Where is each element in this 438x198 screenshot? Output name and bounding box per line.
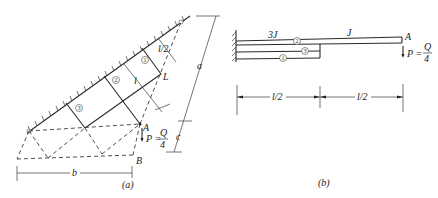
- point-a-marker: [139, 123, 142, 126]
- hinge-top: [179, 20, 183, 24]
- label-point-a-b: A: [404, 31, 412, 42]
- beam-num-3: 3: [304, 48, 307, 54]
- dim-arrow-2: [314, 96, 320, 99]
- beam-num-1: 1: [282, 55, 285, 61]
- dim-arrow-4: [397, 96, 403, 99]
- dashed-diag-2: [48, 128, 85, 158]
- dim-a-label: a: [197, 60, 202, 71]
- caption-b: (b): [318, 177, 330, 189]
- beam-num-2: 2: [296, 38, 299, 44]
- dim-arrow-3: [320, 96, 326, 99]
- member-num-1: 1: [144, 57, 147, 63]
- member-num-3: 3: [78, 105, 81, 111]
- dim-l-line: [124, 64, 162, 112]
- dashed-diag-3: [85, 128, 102, 154]
- dim-l-label: l: [134, 75, 137, 86]
- load-arrowhead-b: [402, 54, 405, 58]
- load-arrowhead-a: [141, 138, 144, 142]
- load-label-a: P =: [145, 133, 161, 144]
- structural-diagram: 3 2 1 l/2 l L A B P = Q 4 a c b (: [0, 0, 438, 198]
- dashed-left: [17, 131, 29, 159]
- load-num-b: Q: [424, 41, 432, 52]
- dim-b-label: b: [72, 167, 77, 178]
- label-point-l: L: [162, 71, 169, 82]
- dim-l2-label: l/2: [158, 43, 169, 54]
- load-den-b: 4: [424, 53, 429, 64]
- dim-arrow-1: [237, 96, 243, 99]
- caption-a: (a): [122, 179, 134, 191]
- dashed-bottom-chord: [17, 155, 133, 159]
- dashed-diag-1: [29, 131, 48, 158]
- dashed-right: [133, 124, 140, 155]
- dim-l-tick: [155, 104, 170, 110]
- dim-c-label: c: [176, 131, 181, 142]
- figure-a: 3 2 1 l/2 l L A B P = Q 4 a c b (: [17, 16, 220, 191]
- load-label-b: P =: [406, 48, 422, 59]
- dim-right-label: l/2: [357, 91, 368, 102]
- beam-1: [236, 58, 320, 59]
- dashed-diag-4: [102, 124, 140, 154]
- member-num-2: 2: [115, 77, 118, 83]
- stiffness-3j: 3J: [267, 29, 278, 40]
- load-num-a: Q: [160, 127, 168, 138]
- stiffness-j: J: [347, 27, 352, 38]
- label-point-a: A: [142, 122, 150, 133]
- label-point-b: B: [136, 155, 142, 166]
- beam-2-top: [236, 37, 402, 41]
- load-den-a: 4: [160, 139, 165, 150]
- wall-hatching: [232, 32, 236, 61]
- figure-b: 2 3 1 3J J A P = Q 4 l/2 l/2 (b): [232, 27, 432, 189]
- dim-left-label: l/2: [272, 91, 283, 102]
- beam-2-bottom: [236, 43, 402, 45]
